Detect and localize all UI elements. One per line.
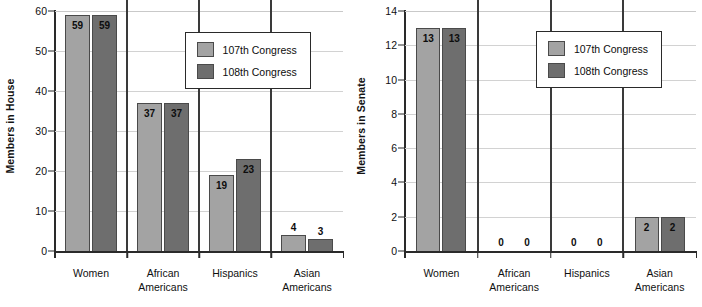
x-axis-category-label: AsianAmericans: [271, 257, 343, 301]
bar-value-label: 23: [243, 165, 254, 175]
bar[interactable]: 19: [209, 175, 234, 251]
x-axis-category-label: Hispanics: [551, 257, 624, 301]
legend-row-108th: 108th Congress: [197, 64, 297, 79]
bar-value-label: 13: [449, 34, 460, 44]
x-axis-labels-senate: WomenAfricanAmericansHispanicsAsianAmeri…: [405, 257, 696, 301]
legend-label-107th: 107th Congress: [223, 44, 297, 56]
bar-group: 1313: [405, 11, 478, 251]
legend-row-107th: 107th Congress: [548, 41, 648, 56]
chart-panel-house: Members in House 0102030405060 595937371…: [0, 0, 351, 307]
legend-house: 107th Congress 108th Congress: [185, 32, 311, 89]
bar[interactable]: 13: [416, 28, 440, 251]
legend-swatch-108th-icon: [197, 64, 214, 79]
bar-value-label: 0: [498, 238, 504, 248]
legend-label-107th: 107th Congress: [574, 43, 648, 55]
plot-area-senate: 02468101214 1313000022 107th Congress 10…: [405, 11, 696, 253]
x-axis-category-label-line: Americans: [127, 280, 199, 294]
y-axis-title-senate: Members in Senate: [353, 0, 369, 252]
bar-value-label: 13: [423, 34, 434, 44]
bar-value-label: 0: [597, 238, 603, 248]
y-axis-tick-label: 12: [385, 39, 405, 51]
legend-swatch-107th-icon: [548, 41, 565, 56]
y-axis-tick-label: 50: [35, 45, 55, 57]
x-axis-category-label-line: Women: [405, 266, 478, 280]
bar-value-label: 19: [216, 181, 227, 191]
x-axis-category-label-line: Americans: [478, 280, 551, 294]
bar[interactable]: 23: [236, 159, 261, 251]
x-axis-category-label: Hispanics: [199, 257, 271, 301]
y-axis-tick-label: 0: [41, 245, 55, 257]
legend-label-108th: 108th Congress: [574, 65, 648, 77]
bar-value-label: 3: [318, 227, 324, 237]
x-axis-category-label-line: Women: [55, 266, 127, 280]
x-axis-category-label: Women: [405, 257, 478, 301]
bar-value-label: 59: [99, 21, 110, 31]
bar[interactable]: 13: [442, 28, 466, 251]
y-axis-tick-label: 4: [391, 176, 405, 188]
bar-group: 5959: [55, 11, 127, 251]
bar[interactable]: 3: [308, 239, 333, 251]
bar-value-label: 37: [171, 109, 182, 119]
x-axis-category-label-line: Americans: [271, 280, 343, 294]
y-axis-title-house: Members in House: [2, 0, 18, 252]
bar-value-label: 2: [644, 223, 650, 233]
x-axis-category-label-line: African: [127, 266, 199, 280]
plot-area-house: 0102030405060 59593737192343 107th Congr…: [55, 11, 343, 253]
x-axis-category-label: Women: [55, 257, 127, 301]
x-axis-category-label-line: Asian: [623, 266, 696, 280]
y-axis-tick-label: 8: [391, 108, 405, 120]
x-axis-category-label-line: Asian: [271, 266, 343, 280]
y-axis-tick-label: 6: [391, 142, 405, 154]
bar-value-label: 37: [144, 109, 155, 119]
y-axis-tick-label: 20: [35, 165, 55, 177]
legend-senate: 107th Congress 108th Congress: [536, 31, 662, 88]
x-axis-category-label-line: Americans: [623, 280, 696, 294]
y-axis-tick-label: 2: [391, 211, 405, 223]
y-axis-title-house-text: Members in House: [4, 79, 16, 174]
y-axis-tick-label: 0: [391, 245, 405, 257]
legend-row-107th: 107th Congress: [197, 42, 297, 57]
x-axis-category-label-line: Hispanics: [551, 266, 624, 280]
bar[interactable]: 37: [137, 103, 162, 251]
x-axis-category-label: AsianAmericans: [623, 257, 696, 301]
bar-value-label: 59: [72, 21, 83, 31]
x-axis-category-label-line: Hispanics: [199, 266, 271, 280]
bar-value-label: 4: [291, 223, 297, 233]
dual-bar-chart-figure: Members in House 0102030405060 595937371…: [0, 0, 702, 307]
legend-label-108th: 108th Congress: [223, 66, 297, 78]
y-axis-tick-label: 10: [35, 205, 55, 217]
bar-value-label: 0: [571, 238, 577, 248]
legend-swatch-107th-icon: [197, 42, 214, 57]
y-axis-tick-label: 40: [35, 85, 55, 97]
chart-panel-senate: Members in Senate 02468101214 1313000022…: [351, 0, 702, 307]
bar[interactable]: 59: [65, 15, 90, 251]
bar[interactable]: 59: [92, 15, 117, 251]
y-axis-tick-label: 14: [385, 5, 405, 17]
y-axis-tick-label: 10: [385, 74, 405, 86]
bar[interactable]: 2: [635, 217, 659, 251]
y-axis-tick-label: 30: [35, 125, 55, 137]
bar[interactable]: 4: [281, 235, 306, 251]
bar[interactable]: 37: [164, 103, 189, 251]
x-axis-labels-house: WomenAfricanAmericansHispanicsAsianAmeri…: [55, 257, 343, 301]
y-axis-title-senate-text: Members in Senate: [355, 77, 367, 174]
bar[interactable]: 2: [661, 217, 685, 251]
x-axis-category-label: AfricanAmericans: [127, 257, 199, 301]
x-axis-category-label: AfricanAmericans: [478, 257, 551, 301]
bar-value-label: 2: [670, 223, 676, 233]
legend-swatch-108th-icon: [548, 63, 565, 78]
legend-row-108th: 108th Congress: [548, 63, 648, 78]
x-axis-category-label-line: African: [478, 266, 551, 280]
bar-value-label: 0: [524, 238, 530, 248]
y-axis-tick-label: 60: [35, 5, 55, 17]
